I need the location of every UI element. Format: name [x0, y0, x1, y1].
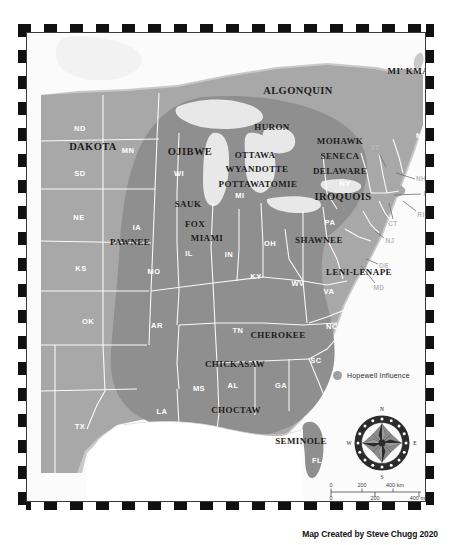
- map-frame: ALGONQUINMI' KMAQHURONDAKOTAMOHAWKOJIBWE…: [18, 24, 434, 510]
- frame-border-top: [18, 24, 434, 32]
- scale-mi-tick-1: 200: [370, 495, 379, 501]
- compass-south-label: S: [380, 474, 383, 480]
- scale-km-tick-0: 0: [329, 482, 332, 488]
- legend: Hopewell Influence: [333, 371, 410, 380]
- hopewell-influence-swatch-icon: [333, 371, 342, 380]
- map-credit: Map Created by Steve Chugg 2020: [302, 529, 438, 539]
- frame-border-bottom: [18, 502, 434, 510]
- scale-km-tick-2: 400 km: [386, 482, 404, 488]
- compass-north-label: N: [380, 406, 384, 412]
- scale-bar: 0 200 400 km 0 200 400 mi: [329, 483, 423, 501]
- legend-label: Hopewell Influence: [347, 372, 410, 379]
- compass-rose: N E S W: [345, 405, 419, 481]
- compass-west-label: W: [346, 440, 352, 446]
- frame-border-right: [426, 24, 434, 510]
- frame-border-left: [18, 24, 26, 510]
- scale-mi-tick-0: 0: [329, 495, 332, 501]
- scale-km-tick-1: 200: [357, 482, 366, 488]
- compass-east-label: E: [413, 440, 417, 446]
- map-page: ALGONQUINMI' KMAQHURONDAKOTAMOHAWKOJIBWE…: [0, 0, 452, 545]
- scale-mi-tick-2: 400 mi: [410, 495, 425, 501]
- map-canvas: ALGONQUINMI' KMAQHURONDAKOTAMOHAWKOJIBWE…: [27, 33, 425, 501]
